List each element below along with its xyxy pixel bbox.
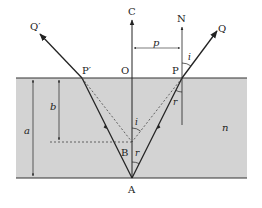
label-o: O xyxy=(121,65,129,76)
label-p-prime: P′ xyxy=(82,65,92,76)
angle-i-arc-top xyxy=(182,63,191,66)
label-angle-r-right: r xyxy=(173,97,178,107)
label-c: C xyxy=(128,6,136,17)
label-b-length: b xyxy=(50,101,56,112)
ray-p-prime-to-q-prime xyxy=(40,34,82,78)
label-angle-r-center: r xyxy=(135,148,140,158)
label-medium-n: n xyxy=(222,122,228,133)
label-angle-i-top: i xyxy=(188,52,191,62)
refraction-diagram: Q′ P′ C O N P Q B A p a b i r i r n xyxy=(0,0,262,208)
label-a-point: A xyxy=(127,184,136,195)
label-p: P xyxy=(172,65,179,76)
label-q-prime: Q′ xyxy=(30,21,41,32)
label-a-length: a xyxy=(24,125,30,136)
label-p-length: p xyxy=(153,37,160,48)
label-q: Q xyxy=(218,23,226,34)
label-b: B xyxy=(121,147,128,158)
label-angle-i-center: i xyxy=(135,117,138,127)
label-n-point: N xyxy=(177,13,186,24)
